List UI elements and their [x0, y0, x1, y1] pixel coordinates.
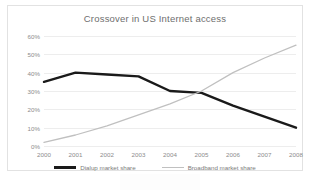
series-line — [44, 73, 296, 128]
legend-item-broadband: Broadband market share — [162, 164, 256, 171]
chart-title: Crossover in US Internet access — [8, 13, 302, 24]
chart-frame: Crossover in US Internet access 0%10%20%… — [7, 5, 303, 171]
y-axis-tick-label: 10% — [28, 124, 40, 131]
x-axis-tick-label: 2008 — [289, 151, 303, 158]
gridline — [44, 146, 296, 147]
plot-area: 0%10%20%30%40%50%60% 2000200120022003200… — [44, 36, 296, 146]
x-axis-tick-label: 2001 — [69, 151, 83, 158]
x-axis-tick-label: 2000 — [37, 151, 51, 158]
y-axis-tick-label: 60% — [28, 33, 40, 40]
series-line — [44, 45, 296, 142]
y-axis-tick-label: 40% — [28, 69, 40, 76]
x-axis-tick-label: 2004 — [163, 151, 177, 158]
y-axis-tick-label: 30% — [28, 88, 40, 95]
chart-legend: Dialup market share Broadband market sha… — [8, 164, 302, 171]
series-lines — [44, 36, 296, 146]
x-axis-tick-label: 2007 — [258, 151, 272, 158]
x-axis-tick-label: 2002 — [100, 151, 114, 158]
background-watermark — [120, 174, 200, 190]
y-axis-tick-label: 20% — [28, 106, 40, 113]
x-axis-tick-label: 2003 — [132, 151, 146, 158]
legend-swatch-broadband-icon — [162, 167, 184, 168]
y-axis-tick-label: 0% — [31, 143, 40, 150]
x-axis-tick-label: 2006 — [226, 151, 240, 158]
legend-label-dialup: Dialup market share — [80, 164, 135, 171]
x-axis-tick-label: 2005 — [195, 151, 209, 158]
y-axis-tick-label: 50% — [28, 51, 40, 58]
legend-label-broadband: Broadband market share — [188, 164, 256, 171]
legend-swatch-dialup-icon — [54, 166, 76, 168]
legend-item-dialup: Dialup market share — [54, 164, 135, 171]
